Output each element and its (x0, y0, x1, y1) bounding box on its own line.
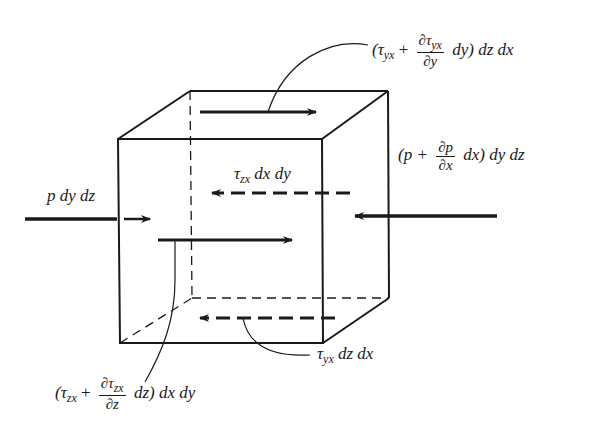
fraction-dp-dx: ∂p∂x (436, 140, 455, 173)
label-bottom-shear: τyx dz dx (317, 345, 373, 365)
leader-top-shear (268, 44, 368, 112)
fraction-dtau-dy: ∂τyx∂y (417, 33, 444, 69)
cube-edge-top-right (322, 91, 388, 139)
leader-bottom-shear (243, 318, 310, 355)
cube-hidden-edge-vertical (190, 91, 192, 298)
label-right-pressure: (p + ∂p∂x dx) dy dz (398, 140, 525, 173)
cube-edge-bottom-right (323, 298, 389, 343)
label-front-shear: (τzx + ∂τzx∂z dz) dx dy (55, 376, 195, 412)
fluid-element-diagram: (τyx + ∂τyx∂y dy) dz dx (p + ∂p∂x dx) dy… (0, 0, 601, 442)
label-left-pressure: p dy dz (47, 187, 95, 204)
label-top-shear: (τyx + ∂τyx∂y dy) dz dx (372, 33, 514, 69)
fraction-dtau-dz: ∂τzx∂z (99, 376, 126, 412)
leader-front-shear (145, 240, 175, 382)
cube-hidden-edge-bottom-left (120, 298, 192, 343)
cube-edge-top-left (118, 91, 190, 139)
label-back-shear: τzx dx dy (234, 165, 291, 185)
cube-edge-back-right (388, 91, 389, 298)
